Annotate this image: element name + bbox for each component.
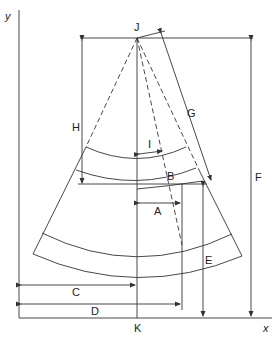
dim-i-label: I	[148, 139, 151, 150]
sector-left-edge	[33, 147, 86, 254]
dim-b-label: B	[167, 171, 174, 182]
point-j-label: J	[134, 22, 140, 33]
dim-a-label: A	[154, 206, 161, 217]
geometry-drawing	[0, 0, 278, 342]
dim-d-label: D	[91, 306, 99, 317]
x-axis-label: x	[263, 323, 269, 334]
dim-e-label: E	[205, 255, 212, 266]
diagram: y x J K A B C D E F G H I	[0, 0, 278, 342]
dim-g-label: G	[187, 108, 196, 119]
dim-c-label: C	[72, 287, 80, 298]
dim-h-label: H	[72, 122, 80, 133]
point-k-label: K	[134, 323, 141, 334]
dim-f-label: F	[255, 172, 262, 183]
y-axis-label: y	[5, 11, 11, 22]
sector-right-edge	[200, 172, 242, 256]
